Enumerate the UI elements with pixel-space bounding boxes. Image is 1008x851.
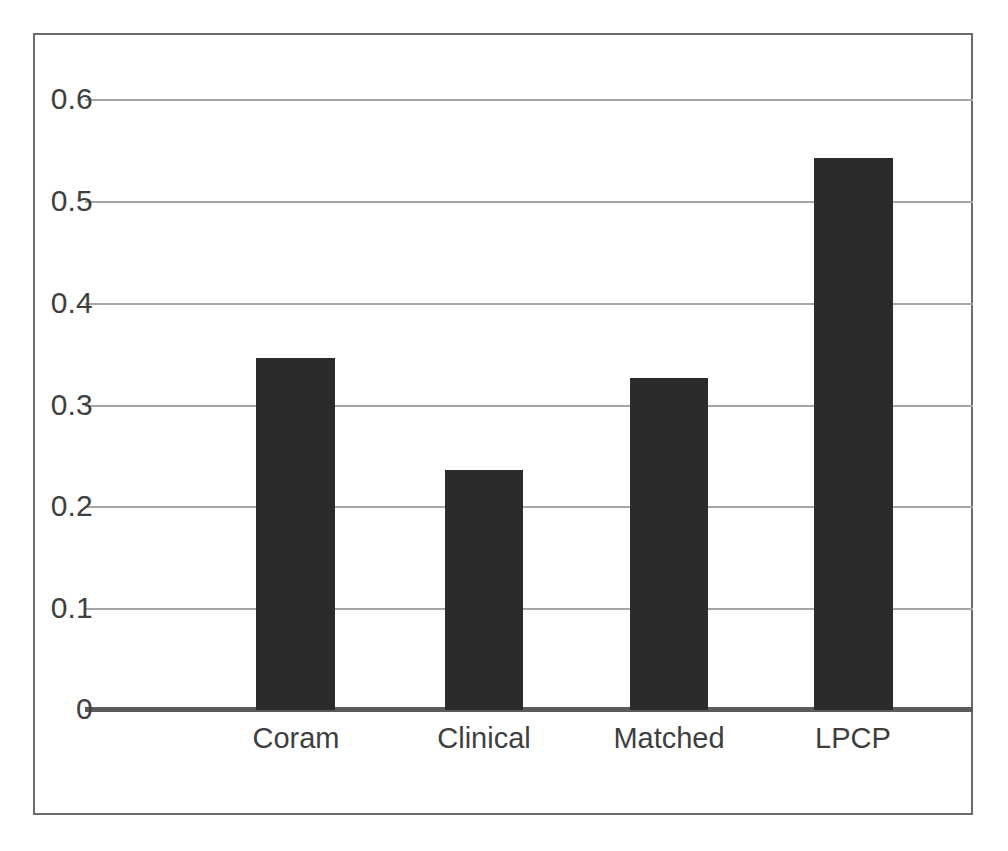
y-tick-label-0.1: 0.1: [33, 593, 93, 623]
bar-series: [107, 99, 973, 710]
figure: 0.6 0.5 0.4 0.3 0.2 0.1 0 Coram Clinical…: [0, 0, 1008, 851]
x-tick-label-coram: Coram: [196, 718, 396, 758]
x-tick-label-matched: Matched: [569, 718, 769, 758]
y-tick-label-0.6: 0.6: [33, 84, 93, 114]
y-tick-label-0.5: 0.5: [33, 186, 93, 216]
bar-lpcp[interactable]: [814, 158, 893, 710]
y-tick-label-0: 0: [33, 694, 93, 724]
bar-coram[interactable]: [256, 358, 335, 710]
y-tick-label-0.3: 0.3: [33, 390, 93, 420]
y-axis-tick-labels: 0.6 0.5 0.4 0.3 0.2 0.1 0: [33, 33, 93, 815]
bar-matched[interactable]: [630, 378, 708, 710]
x-axis-tick-labels: Coram Clinical Matched LPCP: [107, 718, 973, 766]
y-tick-label-0.4: 0.4: [33, 288, 93, 318]
x-tick-label-lpcp: LPCP: [753, 718, 953, 758]
x-tick-label-clinical: Clinical: [384, 718, 584, 758]
bar-clinical[interactable]: [445, 470, 523, 710]
y-tick-label-0.2: 0.2: [33, 491, 93, 521]
